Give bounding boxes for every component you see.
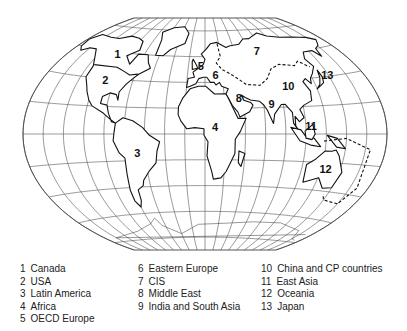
legend-number: 12 bbox=[261, 288, 272, 301]
legend-label: Africa bbox=[31, 301, 57, 312]
region-label-11: 11 bbox=[305, 120, 317, 132]
region-label-2: 2 bbox=[102, 74, 108, 86]
region-label-10: 10 bbox=[282, 80, 294, 92]
new-guinea-outline bbox=[327, 135, 345, 148]
legend-item: 11East Asia bbox=[261, 276, 383, 289]
landmasses bbox=[81, 27, 371, 241]
region-label-1: 1 bbox=[114, 48, 120, 60]
legend-item: 12Oceania bbox=[261, 288, 383, 301]
region-label-4: 4 bbox=[212, 121, 219, 133]
legend-item: 3Latin America bbox=[20, 288, 94, 301]
legend-item: 4Africa bbox=[20, 301, 94, 314]
legend-label: CIS bbox=[149, 276, 166, 287]
legend-number: 13 bbox=[261, 301, 272, 314]
region-label-6: 6 bbox=[212, 69, 218, 81]
legend-item: 9India and South Asia bbox=[138, 301, 240, 314]
legend-number: 5 bbox=[20, 313, 26, 326]
legend-item: 13Japan bbox=[261, 301, 383, 314]
legend-number: 2 bbox=[20, 276, 26, 289]
legend-number: 11 bbox=[261, 276, 271, 289]
legend-number: 10 bbox=[261, 263, 272, 276]
legend-number: 6 bbox=[138, 263, 144, 276]
legend-item: 2USA bbox=[20, 276, 94, 289]
legend-label: Eastern Europe bbox=[149, 263, 219, 274]
legend-number: 7 bbox=[138, 276, 144, 289]
legend-label: India and South Asia bbox=[149, 301, 241, 312]
region-label-8: 8 bbox=[236, 92, 242, 104]
legend-item: 1Canada bbox=[20, 263, 94, 276]
region-label-9: 9 bbox=[269, 98, 275, 110]
legend-label: Japan bbox=[277, 301, 304, 312]
region-label-5: 5 bbox=[198, 60, 204, 72]
world-map: 12345678910111213 bbox=[0, 0, 407, 258]
legend-label: Canada bbox=[31, 263, 66, 274]
legend-item: 6Eastern Europe bbox=[138, 263, 240, 276]
legend-label: East Asia bbox=[276, 276, 318, 287]
legend-label: Oceania bbox=[277, 288, 314, 299]
region-label-12: 12 bbox=[319, 163, 331, 175]
legend-number: 9 bbox=[138, 301, 144, 314]
region-label-3: 3 bbox=[134, 147, 140, 159]
legend-item: 7CIS bbox=[138, 276, 240, 289]
legend-number: 8 bbox=[138, 288, 144, 301]
legend-label: OECD Europe bbox=[31, 313, 95, 324]
legend-label: USA bbox=[31, 276, 52, 287]
region-label-7: 7 bbox=[254, 45, 260, 57]
legend-column-2: 6Eastern Europe 7CIS 8Middle East 9India… bbox=[138, 263, 240, 313]
legend-column-1: 1Canada 2USA 3Latin America 4Africa 5OEC… bbox=[20, 263, 94, 326]
scandinavia-uk-outline bbox=[192, 59, 197, 69]
legend-number: 3 bbox=[20, 288, 26, 301]
legend-label: China and CP countries bbox=[277, 263, 382, 274]
legend-item: 10China and CP countries bbox=[261, 263, 383, 276]
region-label-13: 13 bbox=[321, 69, 333, 81]
legend-label: Middle East bbox=[149, 288, 201, 299]
legend-item: 8Middle East bbox=[138, 288, 240, 301]
legend-number: 1 bbox=[20, 263, 26, 276]
legend-column-3: 10China and CP countries 11East Asia 12O… bbox=[261, 263, 383, 313]
legend-number: 4 bbox=[20, 301, 26, 314]
legend-label: Latin America bbox=[31, 288, 92, 299]
legend-item: 5OECD Europe bbox=[20, 313, 94, 326]
